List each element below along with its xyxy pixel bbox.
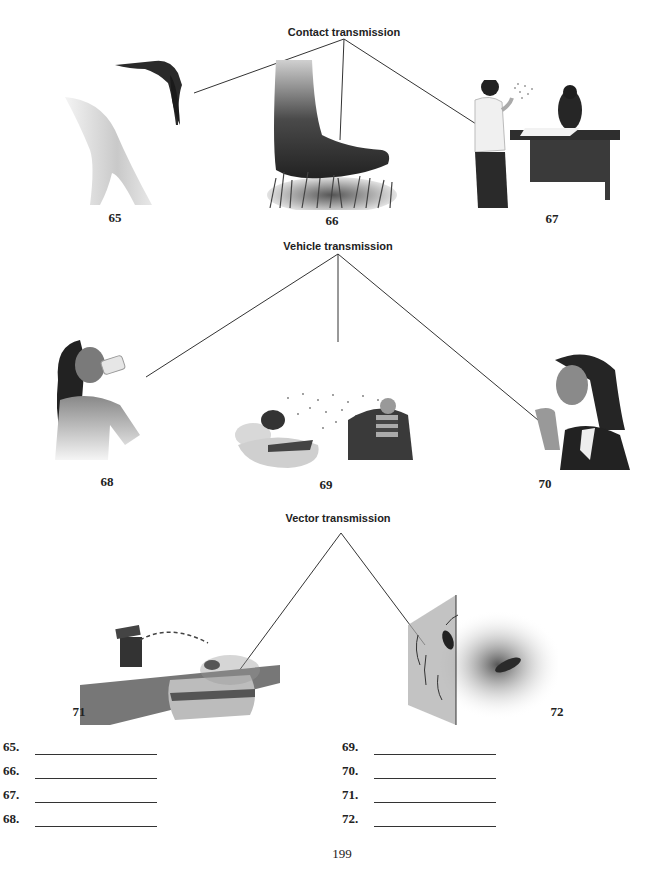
item-number-66: 66 [326, 213, 339, 229]
man-sneezing-at-office-desk-illustration [470, 80, 620, 210]
bare-foot-stepping-on-grass-illustration [262, 60, 402, 210]
bat-biting-shoulder-illustration [60, 55, 200, 205]
answer-number: 68. [3, 811, 33, 827]
answer-row-70: 70. [342, 763, 496, 779]
woman-coughing-into-hand-illustration [520, 350, 630, 470]
item-number-68: 68 [101, 474, 114, 490]
section-heading-vehicle: Vehicle transmission [283, 240, 392, 252]
page-number: 199 [332, 846, 352, 862]
answer-blank-68[interactable] [35, 814, 157, 827]
answer-row-72: 72. [342, 811, 496, 827]
item-number-65: 65 [109, 210, 122, 226]
item-number-71: 71 [73, 704, 86, 720]
answer-blank-70[interactable] [374, 766, 496, 779]
answer-number: 72. [342, 811, 372, 827]
airborne-particles-between-two-people-illustration [228, 390, 458, 470]
cockroach-on-wall-and-floor-illustration [408, 595, 558, 725]
fly-from-trash-to-sandwich-illustration [80, 625, 290, 725]
woman-drinking-from-cup-illustration [50, 340, 160, 460]
answer-blank-71[interactable] [374, 790, 496, 803]
item-number-69: 69 [320, 477, 333, 493]
item-number-67: 67 [546, 211, 559, 227]
answer-number: 67. [3, 787, 33, 803]
answer-row-65: 65. [3, 739, 157, 755]
answer-blank-66[interactable] [35, 766, 157, 779]
section-heading-vector: Vector transmission [285, 512, 390, 524]
answer-number: 69. [342, 739, 372, 755]
answer-row-66: 66. [3, 763, 157, 779]
answer-blank-69[interactable] [374, 742, 496, 755]
answer-row-68: 68. [3, 811, 157, 827]
answer-blank-65[interactable] [35, 742, 157, 755]
answer-row-67: 67. [3, 787, 157, 803]
answer-number: 70. [342, 763, 372, 779]
answer-number: 66. [3, 763, 33, 779]
answer-row-71: 71. [342, 787, 496, 803]
answer-row-69: 69. [342, 739, 496, 755]
section-heading-contact: Contact transmission [288, 26, 400, 38]
item-number-70: 70 [539, 476, 552, 492]
item-number-72: 72 [551, 704, 564, 720]
answer-blank-72[interactable] [374, 814, 496, 827]
answer-number: 65. [3, 739, 33, 755]
answer-blank-67[interactable] [35, 790, 157, 803]
answer-number: 71. [342, 787, 372, 803]
